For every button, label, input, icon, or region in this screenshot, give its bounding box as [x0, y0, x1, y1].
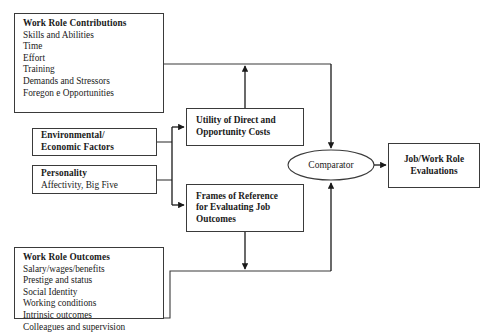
node-list-item: Effort	[23, 53, 157, 65]
node-list-item: Demands and Stressors	[23, 76, 157, 88]
node-text-line-2: for Evaluating Job	[196, 202, 297, 214]
node-personality: Personality Affectivity, Big Five	[32, 165, 157, 194]
node-text-line-2: Opportunity Costs	[196, 127, 297, 139]
node-list-item: Working conditions	[23, 298, 157, 310]
node-heading-line-1: Environmental/	[41, 130, 150, 142]
node-list-item: Salary/wages/benefits	[23, 264, 157, 276]
flowchart-diagram: Work Role Contributions Skills and Abili…	[0, 0, 492, 333]
node-heading: Work Role Outcomes	[23, 252, 157, 264]
node-list-item: Time	[23, 41, 157, 53]
node-text-line-1: Job/Work Role	[395, 154, 473, 166]
node-work-role-contributions: Work Role Contributions Skills and Abili…	[14, 13, 164, 113]
node-utility-of-direct-and-opportunity-costs: Utility of Direct and Opportunity Costs	[186, 108, 304, 146]
node-list-item: Training	[23, 64, 157, 76]
node-list-item: Skills and Abilities	[23, 30, 157, 42]
node-text-line-1: Frames of Reference	[196, 191, 297, 203]
node-text-line-3: Outcomes	[196, 214, 297, 226]
node-list-item: Affectivity, Big Five	[41, 180, 150, 192]
node-text-line-1: Utility of Direct and	[196, 115, 297, 127]
node-list-item: Intrinsic outcomes	[23, 310, 157, 322]
node-frames-of-reference-for-evaluating-job-outcomes: Frames of Reference for Evaluating Job O…	[186, 184, 304, 232]
node-list-item: Prestige and status	[23, 275, 157, 287]
comparator-ellipse	[288, 150, 374, 180]
node-text-line-2: Evaluations	[395, 166, 473, 178]
node-heading: Personality	[41, 168, 150, 180]
connector-outcomes-bus	[164, 271, 331, 318]
node-job-work-role-evaluations: Job/Work Role Evaluations	[388, 143, 480, 188]
node-heading-line-2: Economic Factors	[41, 142, 150, 154]
node-list-item: Social Identity	[23, 287, 157, 299]
node-heading: Work Role Contributions	[23, 18, 157, 30]
node-list-item: Foregon e Opportunities	[23, 88, 157, 100]
node-work-role-outcomes: Work Role Outcomes Salary/wages/benefits…	[14, 247, 164, 319]
node-environmental-economic-factors: Environmental/ Economic Factors	[32, 128, 157, 156]
node-list-item: Colleagues and supervision	[23, 322, 157, 333]
